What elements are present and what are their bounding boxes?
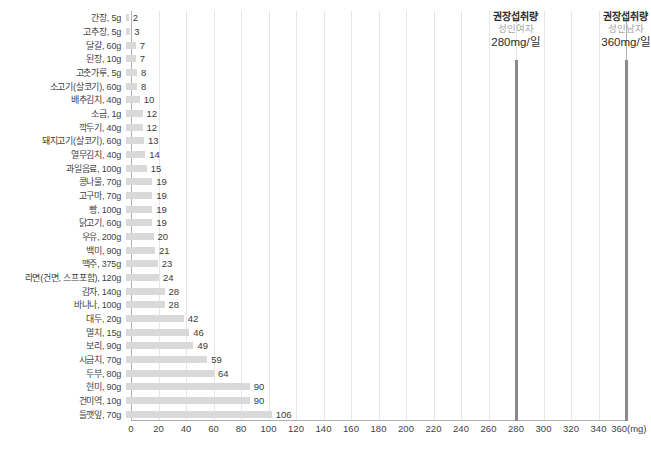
x-tick-label-340: 340 xyxy=(591,423,607,434)
x-tick-label-140: 140 xyxy=(316,423,332,434)
bar xyxy=(126,356,207,363)
x-tick-label-80: 80 xyxy=(236,423,247,434)
bar-row-label: 시금치, 70g xyxy=(0,353,126,366)
bar-value-label: 8 xyxy=(141,67,146,78)
bar-row: 배추김치, 40g10 xyxy=(0,93,635,107)
bar-row: 깍두기, 40g12 xyxy=(0,120,635,134)
bar-row: 감자, 140g28 xyxy=(0,284,635,298)
bar-row-label: 된장, 10g xyxy=(0,52,126,65)
bar xyxy=(126,315,184,322)
bar-track: 15 xyxy=(126,161,635,175)
bar-row-label: 현미, 90g xyxy=(0,380,126,393)
bar-row-label: 배추김치, 40g xyxy=(0,93,126,106)
x-tick-label-20: 20 xyxy=(153,423,164,434)
bar-row: 닭고기, 60g19 xyxy=(0,216,635,230)
bar-row: 라면(건면, 스프포함), 120g24 xyxy=(0,271,635,285)
bar-value-label: 19 xyxy=(156,204,167,215)
x-tick-label-300: 300 xyxy=(536,423,552,434)
bar xyxy=(126,151,145,158)
bar-track: 106 xyxy=(126,407,635,421)
bar-row-label: 달걀, 60g xyxy=(0,39,126,52)
bar xyxy=(126,28,130,35)
bar xyxy=(126,397,250,404)
bar-row: 빵, 100g19 xyxy=(0,202,635,216)
bar xyxy=(126,301,165,308)
bar-row-label: 간장, 5g xyxy=(0,11,126,24)
bar xyxy=(126,55,136,62)
x-tick-label-240: 240 xyxy=(453,423,469,434)
bar-track: 90 xyxy=(126,394,635,408)
bar-value-label: 49 xyxy=(197,340,208,351)
bar-row: 바나나, 100g28 xyxy=(0,298,635,312)
bar-row: 시금치, 70g59 xyxy=(0,353,635,367)
bar-rows: 간장, 5g2고추장, 5g3달걀, 60g7된장, 10g7고춧가루, 5g8… xyxy=(0,11,635,421)
bar-track: 2 xyxy=(126,11,635,25)
bar-row: 고구마, 70g19 xyxy=(0,189,635,203)
bar-value-label: 28 xyxy=(169,299,180,310)
bar xyxy=(126,165,147,172)
bar-row-label: 우유, 200g xyxy=(0,230,126,243)
bar-row: 고춧가루, 5g8 xyxy=(0,66,635,80)
bar-row-label: 빵, 100g xyxy=(0,203,126,216)
x-tick-label-320: 320 xyxy=(563,423,579,434)
bar-value-label: 7 xyxy=(140,53,145,64)
bar xyxy=(126,192,152,199)
bar-value-label: 10 xyxy=(144,94,155,105)
bar-track: 20 xyxy=(126,230,635,244)
bar xyxy=(126,288,165,295)
bar-value-label: 7 xyxy=(140,40,145,51)
bar-track: 46 xyxy=(126,325,635,339)
bar xyxy=(126,110,143,117)
bar-row: 소고기(살코기), 60g8 xyxy=(0,79,635,93)
bar-track: 19 xyxy=(126,216,635,230)
bar xyxy=(126,14,129,21)
bar-value-label: 8 xyxy=(141,81,146,92)
bar xyxy=(126,83,137,90)
bar-row: 맥주, 375g23 xyxy=(0,257,635,271)
recommended-intake-male-subtitle: 성인남자 xyxy=(601,24,650,35)
recommended-intake-male-label: 권장섭취량성인남자360mg/일 xyxy=(601,11,650,50)
bar xyxy=(126,42,136,49)
x-tick-label-60: 60 xyxy=(208,423,219,434)
recommended-intake-female-amount: 280mg/일 xyxy=(491,36,540,49)
bar-row-label: 백미, 90g xyxy=(0,244,126,257)
bar-track: 19 xyxy=(126,202,635,216)
bar xyxy=(126,342,193,349)
bar-track: 13 xyxy=(126,134,635,148)
bar xyxy=(126,383,250,390)
bar-row-label: 맥주, 375g xyxy=(0,257,126,270)
x-tick-label-160: 160 xyxy=(343,423,359,434)
bar-row-label: 고추장, 5g xyxy=(0,25,126,38)
bar-row-label: 건미역, 10g xyxy=(0,394,126,407)
bar-row: 돼지고기(살코기), 60g13 xyxy=(0,134,635,148)
bar-row-label: 깍두기, 40g xyxy=(0,121,126,134)
bar-value-label: 28 xyxy=(169,286,180,297)
bar-track: 24 xyxy=(126,271,635,285)
bar-track: 8 xyxy=(126,66,635,80)
bar-value-label: 24 xyxy=(163,272,174,283)
bar-value-label: 64 xyxy=(218,368,229,379)
bar-row-label: 소금, 1g xyxy=(0,107,126,120)
bar-row-label: 돼지고기(살코기), 60g xyxy=(0,134,126,147)
bar-track: 10 xyxy=(126,93,635,107)
recommended-intake-male-line xyxy=(625,60,628,421)
bar-value-label: 46 xyxy=(193,327,204,338)
bar-track: 23 xyxy=(126,257,635,271)
bar-track: 28 xyxy=(126,298,635,312)
bar-row-label: 고구마, 70g xyxy=(0,189,126,202)
bar-row: 열무김치, 40g14 xyxy=(0,148,635,162)
bar xyxy=(126,219,152,226)
x-tick-label-220: 220 xyxy=(426,423,442,434)
bar-track: 42 xyxy=(126,312,635,326)
bar-track: 64 xyxy=(126,366,635,380)
bar-track: 59 xyxy=(126,353,635,367)
bar-row: 현미, 90g90 xyxy=(0,380,635,394)
bar xyxy=(126,69,137,76)
bar-track: 49 xyxy=(126,339,635,353)
bar xyxy=(126,137,144,144)
bar-row-label: 고춧가루, 5g xyxy=(0,66,126,79)
x-tick-label-260: 260 xyxy=(481,423,497,434)
recommended-intake-female-subtitle: 성인여자 xyxy=(491,24,540,35)
bar-track: 7 xyxy=(126,52,635,66)
bar-value-label: 90 xyxy=(254,381,265,392)
